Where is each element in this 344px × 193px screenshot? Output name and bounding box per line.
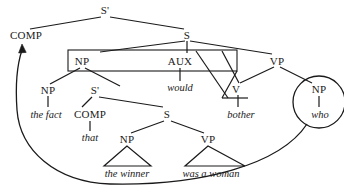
terminal-that: that: [82, 132, 98, 143]
terminal-was-a-woman: was a woman: [182, 168, 239, 179]
node-comp-top: COMP: [10, 29, 42, 41]
node-np-boxed: NP: [75, 55, 89, 67]
branch-sbar-embedded: [82, 97, 163, 107]
branch-vp-main: [240, 67, 312, 83]
terminal-the-winner: the winner: [105, 168, 150, 179]
node-np-who: NP: [312, 83, 326, 95]
triangle-was-a-woman: [185, 146, 245, 166]
branch-s-embedded: [131, 121, 204, 133]
node-np-the-fact: NP: [41, 84, 55, 96]
terminal-who: who: [311, 109, 329, 120]
node-s-bar-top: S': [101, 4, 110, 16]
tree-lines-layer: [0, 0, 344, 193]
node-aux: AUX: [168, 55, 192, 67]
node-comp-embedded: COMP: [74, 108, 106, 120]
node-vp-main: VP: [270, 55, 284, 67]
trace-lines: [196, 51, 248, 98]
terminal-the-fact: the fact: [30, 109, 61, 120]
branch-sbar-top: [30, 17, 184, 29]
syntax-tree-figure: S' COMP S NP AUX VP NP S' V NP COMP S NP…: [0, 0, 344, 193]
node-vp-woman: VP: [201, 133, 215, 145]
branch-s-main: [100, 41, 272, 54]
node-s-main: S: [184, 29, 190, 41]
terminal-bother: bother: [227, 109, 254, 120]
node-s-embedded: S: [164, 108, 170, 120]
node-s-bar-embedded: S': [91, 84, 100, 96]
node-v-bother: V: [232, 83, 240, 95]
node-np-winner: NP: [120, 133, 134, 145]
triangle-the-winner: [104, 146, 151, 166]
boxed-constituent-outline: [68, 50, 237, 71]
terminal-would: would: [167, 82, 193, 93]
